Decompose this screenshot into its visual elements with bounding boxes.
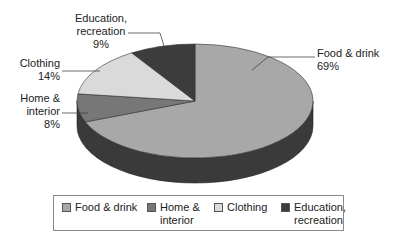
legend-label: Clothing — [227, 201, 267, 214]
legend-label: Food & drink — [75, 201, 137, 214]
legend-swatch — [147, 203, 156, 212]
legend-label: Education, recreation — [294, 201, 346, 227]
label-home-interior: Home & interior 8% — [10, 92, 60, 131]
label-clothing: Clothing 14% — [10, 57, 60, 83]
legend-label: Home & interior — [160, 201, 200, 227]
legend-swatch — [281, 203, 290, 212]
legend-swatch — [62, 203, 71, 212]
legend-swatch — [214, 203, 223, 212]
label-food-drink: Food & drink 69% — [317, 47, 379, 73]
label-education-recreation: Education, recreation 9% — [68, 12, 134, 51]
chart-legend: Food & drink Home & interior Clothing Ed… — [53, 195, 344, 231]
